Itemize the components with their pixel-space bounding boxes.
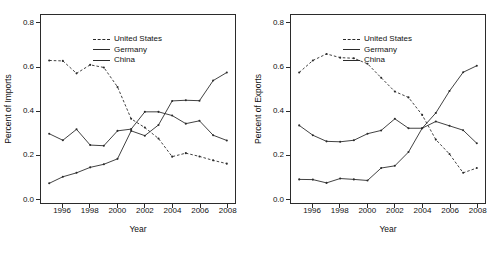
data-point <box>48 182 50 184</box>
y-tick-label: 0.2 <box>0 150 40 160</box>
data-point <box>366 179 368 181</box>
data-point <box>226 71 228 73</box>
data-point <box>476 167 478 169</box>
data-point <box>312 179 314 181</box>
data-point <box>89 166 91 168</box>
y-tick-label: 0.2 <box>250 150 290 160</box>
x-tick-mark <box>62 204 63 208</box>
data-point <box>407 96 409 98</box>
data-point <box>394 90 396 92</box>
data-point <box>476 142 478 144</box>
data-point <box>339 177 341 179</box>
legend-label: United States <box>114 34 162 45</box>
data-point <box>185 152 187 154</box>
data-point <box>421 114 423 116</box>
data-point <box>353 139 355 141</box>
data-point <box>48 133 50 135</box>
legend-swatch-solid <box>343 60 360 61</box>
data-point <box>89 64 91 66</box>
data-point <box>325 182 327 184</box>
data-point <box>62 139 64 141</box>
x-tick-mark <box>312 204 313 208</box>
chart-figure: Percent of Imports 0.00.20.40.60.8 Unite… <box>0 0 499 274</box>
data-point <box>75 128 77 130</box>
data-point <box>103 145 105 147</box>
panel-imports: Percent of Imports 0.00.20.40.60.8 Unite… <box>0 0 249 274</box>
data-point <box>144 135 146 137</box>
y-tick-label: 0.4 <box>250 106 290 116</box>
data-point <box>198 100 200 102</box>
line-germany <box>299 119 477 143</box>
data-point <box>48 59 50 61</box>
y-tick-label: 0.6 <box>250 62 290 72</box>
data-point <box>157 137 159 139</box>
line-united-states <box>299 54 477 173</box>
data-point <box>339 141 341 143</box>
data-point <box>380 167 382 169</box>
legend-label: Germany <box>114 45 147 56</box>
data-point <box>435 139 437 141</box>
data-point <box>130 130 132 132</box>
x-tick-mark <box>394 204 395 208</box>
data-point <box>394 118 396 120</box>
legend-label: China <box>364 55 385 66</box>
data-point <box>212 159 214 161</box>
data-point <box>298 124 300 126</box>
y-tick-label: 0.0 <box>250 195 290 205</box>
plot-area-imports: United StatesGermanyChina <box>40 14 236 204</box>
x-tick-mark <box>339 204 340 208</box>
y-tick-label: 0.8 <box>0 18 40 28</box>
data-point <box>462 172 464 174</box>
data-point <box>116 130 118 132</box>
data-point <box>448 125 450 127</box>
data-point <box>212 134 214 136</box>
data-point <box>448 153 450 155</box>
data-point <box>312 59 314 61</box>
x-tick-mark <box>200 204 201 208</box>
data-point <box>62 176 64 178</box>
x-tick-mark <box>477 204 478 208</box>
data-point <box>144 111 146 113</box>
data-point <box>116 86 118 88</box>
line-china <box>49 72 227 183</box>
data-point <box>448 90 450 92</box>
data-point <box>103 163 105 165</box>
data-point <box>380 129 382 131</box>
data-point <box>407 151 409 153</box>
legend-item: United States <box>343 34 412 45</box>
data-point <box>462 129 464 131</box>
data-point <box>185 123 187 125</box>
y-tick-label: 0.8 <box>250 18 290 28</box>
legend-label: China <box>114 55 135 66</box>
data-point <box>312 134 314 136</box>
legend-exports: United StatesGermanyChina <box>343 34 412 66</box>
x-tick-mark <box>89 204 90 208</box>
line-united-states <box>49 60 227 163</box>
x-tick-mark <box>450 204 451 208</box>
data-point <box>198 120 200 122</box>
data-point <box>212 80 214 82</box>
legend-imports: United StatesGermanyChina <box>93 34 162 66</box>
data-point <box>75 172 77 174</box>
data-point <box>298 71 300 73</box>
x-tick-mark <box>117 204 118 208</box>
panel-exports: Percent of Exports 0.00.20.40.60.8 Unite… <box>250 0 499 274</box>
data-point <box>116 158 118 160</box>
legend-item: United States <box>93 34 162 45</box>
data-point <box>62 60 64 62</box>
legend-swatch-solid <box>343 49 360 50</box>
data-point <box>476 65 478 67</box>
data-point <box>435 120 437 122</box>
x-axis-label-exports: Year <box>290 224 486 234</box>
data-point <box>462 71 464 73</box>
y-tick-label: 0.6 <box>0 62 40 72</box>
data-point <box>366 133 368 135</box>
data-point <box>144 127 146 129</box>
data-point <box>394 165 396 167</box>
data-point <box>171 100 173 102</box>
data-point <box>130 118 132 120</box>
x-tick-mark <box>144 204 145 208</box>
x-tick-mark <box>422 204 423 208</box>
data-point <box>380 77 382 79</box>
plot-area-exports: United StatesGermanyChina <box>290 14 486 204</box>
